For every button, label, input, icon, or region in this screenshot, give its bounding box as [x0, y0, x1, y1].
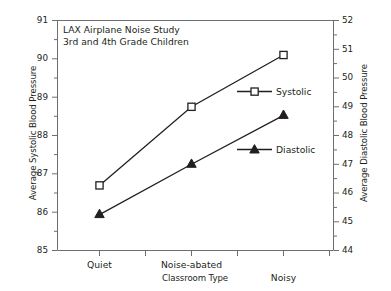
left-major-ticks: [52, 21, 58, 251]
chart-figure: LAX Airplane Noise Study 3rd and 4th Gra…: [0, 0, 391, 291]
chart-title: LAX Airplane Noise Study 3rd and 4th Gra…: [63, 24, 189, 48]
legend-label-diastolic: Diastolic: [276, 144, 315, 155]
y-right-tick-44: 44: [342, 245, 364, 255]
legend-diastolic-marker: [250, 145, 259, 153]
y-left-tick-85: 85: [26, 245, 48, 255]
series-systolic-point-quiet: [96, 182, 103, 189]
bottom-ticks: [100, 251, 330, 257]
chart-title-line2: 3rd and 4th Grade Children: [63, 36, 189, 48]
x-category-noise-abated: Noise-abated: [137, 259, 247, 270]
series-systolic-point-noisy: [280, 51, 287, 58]
legend-systolic-key: [237, 88, 272, 95]
legend-diastolic-key: [237, 145, 272, 153]
x-axis-title: Classroom Type: [140, 273, 250, 283]
y-axis-left-title: Average Systolic Blood Pressure: [28, 33, 38, 233]
legend-label-systolic: Systolic: [276, 86, 311, 97]
series-systolic-point-noise-abated: [188, 103, 195, 110]
y-axis-right-title: Average Diastolic Blood Pressure: [359, 33, 369, 233]
series-systolic: [96, 51, 287, 189]
chart-title-line1: LAX Airplane Noise Study: [63, 24, 189, 36]
y-left-tick-91: 91: [26, 15, 48, 25]
chart-canvas: [0, 0, 391, 291]
series-diastolic-point-noisy: [279, 110, 288, 118]
y-right-tick-52: 52: [342, 15, 364, 25]
legend-systolic-marker: [251, 88, 258, 95]
right-major-ticks: [334, 21, 340, 251]
